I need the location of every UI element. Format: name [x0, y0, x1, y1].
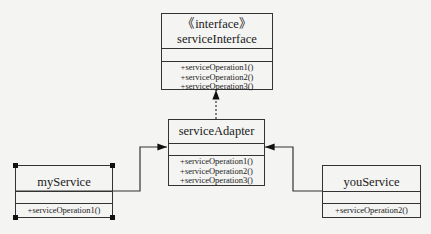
operation: +serviceOperation3() — [162, 82, 272, 92]
divider — [16, 203, 112, 204]
divider — [162, 48, 272, 49]
divider — [323, 191, 420, 192]
interface-stereotype: 《interface》 — [162, 17, 272, 32]
adapter-name: serviceAdapter — [169, 124, 264, 139]
selection-handle-bottom-right[interactable] — [110, 215, 115, 220]
divider — [169, 143, 264, 144]
selection-handle-bottom-left[interactable] — [13, 215, 18, 220]
interface-operations: +serviceOperation1() +serviceOperation2(… — [162, 63, 272, 92]
operation: +serviceOperation3() — [169, 176, 264, 186]
operation: +serviceOperation2() — [323, 206, 420, 216]
adapter-class-box[interactable]: serviceAdapter +serviceOperation1() +ser… — [168, 119, 265, 186]
selection-handle-top-left[interactable] — [13, 163, 18, 168]
youservice-association-arrow — [265, 147, 322, 191]
adapter-operations: +serviceOperation1() +serviceOperation2(… — [169, 157, 264, 186]
interface-class-box[interactable]: 《interface》 serviceInterface +serviceOpe… — [161, 13, 273, 90]
youservice-name: youService — [323, 175, 420, 190]
interface-name: serviceInterface — [162, 32, 272, 47]
youservice-class-box[interactable]: youService +serviceOperation2() — [322, 165, 421, 218]
youservice-operations: +serviceOperation2() — [323, 206, 420, 216]
divider — [16, 191, 112, 192]
operation: +serviceOperation1() — [16, 206, 112, 216]
interface-header: 《interface》 serviceInterface — [162, 17, 272, 47]
myservice-name: myService — [16, 175, 112, 190]
selection-handle-top-right[interactable] — [110, 163, 115, 168]
myservice-class-box[interactable]: myService +serviceOperation1() — [15, 165, 113, 218]
myservice-operations: +serviceOperation1() — [16, 206, 112, 216]
divider — [323, 203, 420, 204]
